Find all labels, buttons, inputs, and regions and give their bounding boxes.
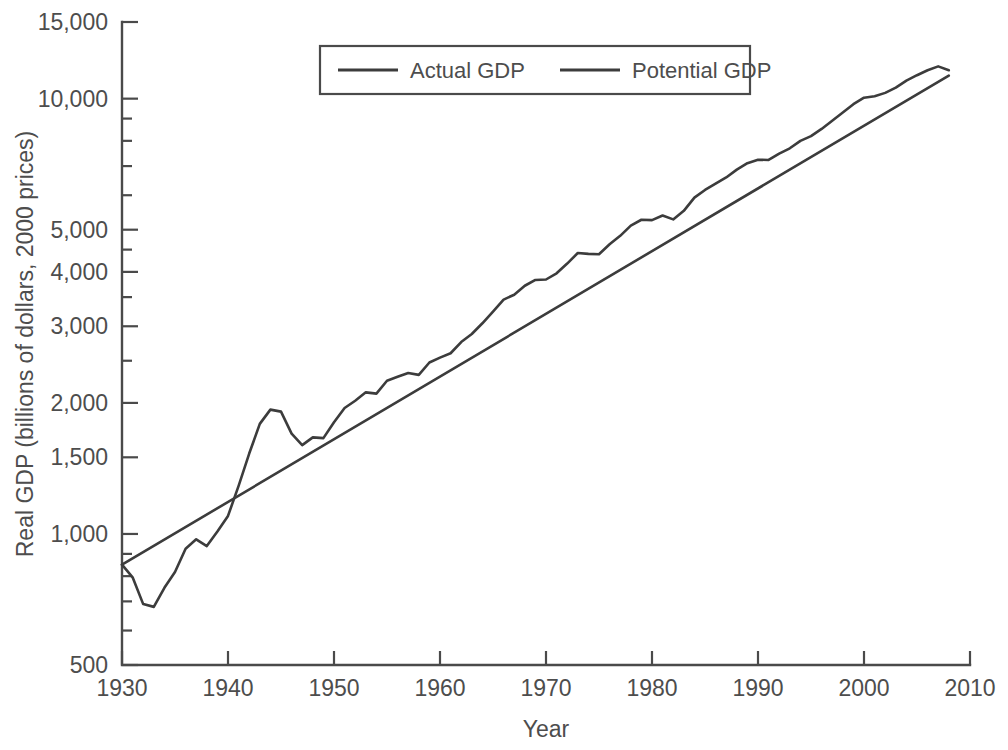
x-tick-label-1940: 1940 [202, 675, 253, 701]
y-tick-label-500: 500 [70, 652, 108, 678]
legend-label-potential-gdp: Potential GDP [632, 58, 771, 83]
x-tick-label-2010: 2010 [944, 675, 995, 701]
y-tick-label-2,000: 2,000 [50, 390, 108, 416]
chart-container: 193019401950196019701980199020002010 500… [0, 0, 1008, 750]
x-tick-label-1960: 1960 [414, 675, 465, 701]
x-axis-ticks [122, 651, 970, 665]
y-tick-label-1,500: 1,500 [50, 444, 108, 470]
y-axis-tick-labels: 5001,0001,5002,0003,0004,0005,00010,0001… [38, 9, 108, 678]
y-tick-label-10,000: 10,000 [38, 86, 108, 112]
x-tick-label-1990: 1990 [732, 675, 783, 701]
legend-label-actual-gdp: Actual GDP [410, 58, 525, 83]
x-tick-label-1970: 1970 [520, 675, 571, 701]
y-tick-label-15,000: 15,000 [38, 9, 108, 35]
y-axis-title: Real GDP (billions of dollars, 2000 pric… [12, 131, 38, 558]
y-axis-minor-ticks [122, 119, 132, 631]
y-tick-label-1,000: 1,000 [50, 521, 108, 547]
x-tick-label-1980: 1980 [626, 675, 677, 701]
gdp-line-chart: 193019401950196019701980199020002010 500… [0, 0, 1008, 750]
x-axis-title: Year [523, 716, 570, 742]
data-series-group [122, 66, 949, 606]
x-tick-label-1950: 1950 [308, 675, 359, 701]
chart-legend: Actual GDP Potential GDP [320, 46, 771, 94]
y-tick-label-3,000: 3,000 [50, 313, 108, 339]
x-axis-tick-labels: 193019401950196019701980199020002010 [96, 675, 995, 701]
y-tick-label-4,000: 4,000 [50, 259, 108, 285]
x-tick-label-2000: 2000 [838, 675, 889, 701]
series-line-potential-gdp [122, 76, 949, 565]
x-tick-label-1930: 1930 [96, 675, 147, 701]
y-tick-label-5,000: 5,000 [50, 217, 108, 243]
axis-spines [122, 22, 970, 665]
